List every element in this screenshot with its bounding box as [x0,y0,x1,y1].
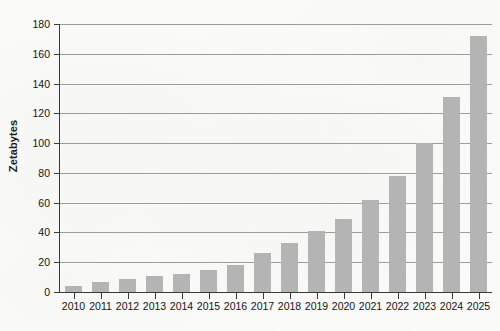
bar [416,143,433,292]
bar [443,97,460,292]
gridline [60,84,492,85]
x-axis-tick-label: 2021 [357,301,385,312]
x-axis-tick [236,293,237,299]
x-axis-tick-label: 2016 [222,301,250,312]
x-axis-tick [425,293,426,299]
bar [362,200,379,292]
x-axis-tick [290,293,291,299]
bar [335,219,352,292]
bar [119,279,136,292]
x-axis-tick [479,293,480,299]
bar [227,265,244,292]
x-axis-tick-label: 2024 [438,301,466,312]
x-axis-tick-label: 2013 [141,301,169,312]
bar [65,286,82,292]
x-axis-tick-label: 2014 [168,301,196,312]
bar [308,231,325,292]
x-axis-tick [371,293,372,299]
x-axis-tick [74,293,75,299]
y-axis-tick-label: 100 [16,138,50,149]
x-axis-tick-label: 2015 [195,301,223,312]
x-axis-tick-label: 2012 [114,301,142,312]
x-axis-tick-label: 2019 [303,301,331,312]
y-axis-tick-label: 20 [16,257,50,268]
bar [389,176,406,292]
bar [173,274,190,292]
x-axis-tick [263,293,264,299]
bar [281,243,298,292]
gridline [60,292,492,293]
y-axis-tick-label: 0 [16,287,50,298]
x-axis-tick [182,293,183,299]
x-axis-tick-label: 2018 [276,301,304,312]
gridline [60,24,492,25]
x-axis-tick-label: 2017 [249,301,277,312]
x-axis-tick-label: 2022 [384,301,412,312]
x-axis-tick [317,293,318,299]
x-axis-tick-label: 2025 [465,301,493,312]
y-axis-tick-label: 120 [16,108,50,119]
x-axis-tick [155,293,156,299]
bar [254,253,271,292]
x-axis-tick [344,293,345,299]
bar [92,282,109,292]
gridline [60,113,492,114]
x-axis-tick-label: 2023 [411,301,439,312]
y-axis-tick-label: 160 [16,49,50,60]
x-axis-tick-label: 2010 [60,301,88,312]
x-axis-tick-label: 2011 [87,301,115,312]
y-axis-tick-label: 40 [16,227,50,238]
bar [470,36,487,292]
plot-area [60,24,492,292]
x-axis-tick [209,293,210,299]
x-axis-tick [398,293,399,299]
x-axis-tick [452,293,453,299]
y-axis-tick-label: 140 [16,79,50,90]
bar [200,270,217,292]
bar [146,276,163,292]
y-axis-tick-label: 80 [16,168,50,179]
x-axis-tick-label: 2020 [330,301,358,312]
x-axis-tick [101,293,102,299]
y-axis-tick-label: 180 [16,19,50,30]
y-axis-tick-label: 60 [16,198,50,209]
bar-chart: Zetabytes 020406080100120140160180 20102… [0,0,500,331]
x-axis-tick [128,293,129,299]
gridline [60,54,492,55]
